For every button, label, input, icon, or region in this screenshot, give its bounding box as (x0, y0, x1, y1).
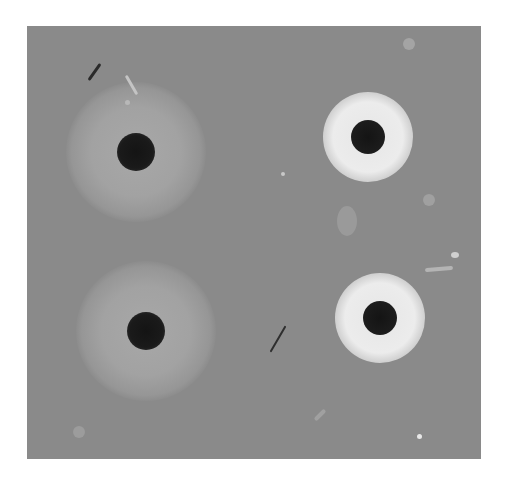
debris-speck (451, 252, 459, 258)
debris-speck (423, 194, 435, 206)
debris-speck (403, 38, 415, 50)
agar-plate-photo (27, 26, 481, 459)
debris-speck (337, 206, 357, 236)
well-bottom-right (363, 301, 397, 335)
debris-speck (417, 434, 422, 439)
debris-fiber (314, 409, 327, 422)
debris-speck (281, 172, 285, 176)
well-bottom-left (127, 312, 165, 350)
well-top-left (117, 133, 155, 171)
well-top-right (351, 120, 385, 154)
debris-fiber (270, 326, 287, 353)
debris-fiber (88, 63, 102, 81)
debris-speck (73, 426, 85, 438)
debris-speck (125, 100, 130, 105)
debris-fiber (425, 266, 453, 272)
